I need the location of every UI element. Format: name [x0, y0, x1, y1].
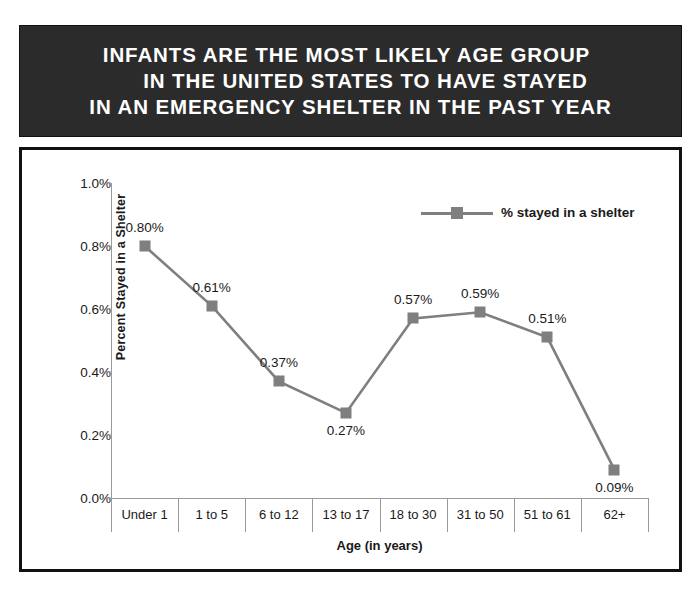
x-category-label: 6 to 12 [245, 507, 312, 522]
data-point-marker[interactable] [475, 307, 486, 318]
legend-label: % stayed in a shelter [501, 205, 635, 220]
title-line-3: IN AN EMERGENCY SHELTER IN THE PAST YEAR [89, 94, 611, 120]
x-axis-categories: Under 11 to 56 to 1213 to 1718 to 3031 t… [111, 498, 648, 532]
title-line-1: INFANTS ARE THE MOST LIKELY AGE GROUP [103, 42, 590, 68]
data-point-marker[interactable] [340, 407, 351, 418]
chart-title-banner: INFANTS ARE THE MOST LIKELY AGE GROUP IN… [19, 25, 682, 137]
x-category-label: Under 1 [111, 507, 178, 522]
data-point-marker[interactable] [139, 241, 150, 252]
chart-legend: % stayed in a shelter [421, 205, 635, 220]
x-category-label: 62+ [581, 507, 648, 522]
data-point-label: 0.61% [193, 280, 231, 295]
data-point-marker[interactable] [408, 313, 419, 324]
x-category-label: 13 to 17 [312, 507, 379, 522]
data-point-label: 0.37% [260, 355, 298, 370]
legend-marker-icon [421, 207, 493, 218]
chart-container: Percent Stayed in a Shelter 1.0%0.8%0.6%… [19, 147, 682, 572]
x-category-label: 51 to 61 [514, 507, 581, 522]
x-axis-title: Age (in years) [111, 538, 648, 553]
data-point-marker[interactable] [273, 376, 284, 387]
x-category-label: 31 to 50 [447, 507, 514, 522]
data-point-label: 0.80% [125, 220, 163, 235]
data-point-label: 0.57% [394, 292, 432, 307]
data-point-label: 0.51% [528, 311, 566, 326]
x-axis-separator [648, 498, 649, 532]
title-line-2: IN THE UNITED STATES TO HAVE STAYED [143, 68, 588, 94]
data-point-marker[interactable] [206, 300, 217, 311]
x-category-label: 1 to 5 [178, 507, 245, 522]
data-point-label: 0.27% [327, 423, 365, 438]
data-point-label: 0.59% [461, 286, 499, 301]
data-point-marker[interactable] [542, 332, 553, 343]
data-point-label: 0.09% [595, 480, 633, 495]
x-category-label: 18 to 30 [380, 507, 447, 522]
data-point-marker[interactable] [609, 464, 620, 475]
